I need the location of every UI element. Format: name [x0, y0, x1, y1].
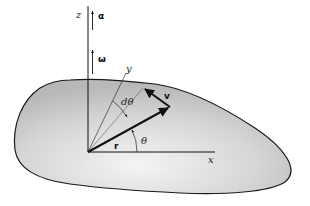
diagram-canvas: z α ω x y r v θ dθ [0, 0, 310, 206]
theta-label: θ [141, 135, 147, 146]
omega-label: ω [98, 54, 106, 64]
alpha-label: α [98, 11, 104, 21]
rigid-body [14, 79, 290, 193]
r-label: r [114, 141, 119, 151]
z-axis-label: z [75, 9, 82, 20]
x-axis-label: x [208, 154, 214, 165]
y-axis-label: y [125, 63, 132, 74]
dtheta-label: dθ [121, 96, 133, 107]
v-label: v [164, 91, 170, 101]
